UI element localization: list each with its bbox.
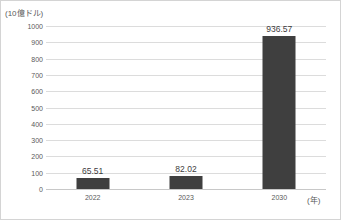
y-axis-tick: 300 — [3, 137, 43, 144]
gridline — [46, 189, 326, 190]
y-axis-tick: 100 — [3, 169, 43, 176]
y-axis-tick: 1000 — [3, 23, 43, 30]
bar-slot: 82.02 — [139, 26, 232, 189]
y-axis-tick: 700 — [3, 71, 43, 78]
x-axis-unit-label: (年) — [307, 194, 320, 205]
x-axis-tick: 2022 — [46, 194, 139, 201]
plot-area: 65.5182.02936.57 — [46, 26, 326, 189]
y-axis-tick: 500 — [3, 104, 43, 111]
y-axis-tick: 800 — [3, 55, 43, 62]
y-axis-tick-labels: 10009008007006005004003002001000 — [1, 26, 43, 189]
bar[interactable] — [263, 36, 296, 189]
x-axis-tick-labels: 202220232030 — [46, 192, 326, 210]
bar[interactable] — [169, 176, 202, 189]
y-axis-tick: 0 — [3, 186, 43, 193]
y-axis-tick: 600 — [3, 88, 43, 95]
bar-value-label: 82.02 — [175, 164, 196, 174]
y-axis-tick: 400 — [3, 120, 43, 127]
bar-chart: (10億ドル) 10009008007006005004003002001000… — [0, 0, 341, 220]
y-axis-tick: 200 — [3, 153, 43, 160]
bar-value-label: 936.57 — [266, 24, 292, 34]
bar-value-label: 65.51 — [82, 166, 103, 176]
bar-slot: 936.57 — [233, 26, 326, 189]
y-axis-tick: 900 — [3, 39, 43, 46]
bar[interactable] — [76, 178, 109, 189]
bar-slot: 65.51 — [46, 26, 139, 189]
x-axis-tick: 2023 — [139, 194, 232, 201]
y-axis-unit-label: (10億ドル) — [5, 7, 43, 18]
